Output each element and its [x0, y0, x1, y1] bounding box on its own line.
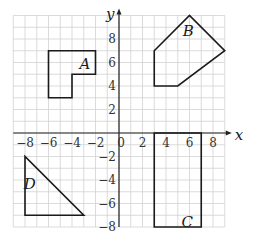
x-tick-label: 0 — [117, 136, 125, 150]
y-tick-label: −8 — [98, 220, 116, 234]
x-axis-arrow-icon — [226, 131, 232, 136]
x-tick-label: −4 — [63, 136, 81, 150]
x-tick-label: −2 — [87, 136, 105, 150]
shape-label: D — [23, 175, 36, 193]
x-tick-label: 6 — [186, 136, 194, 150]
shape-label: B — [182, 22, 194, 40]
x-tick-label: −8 — [16, 136, 34, 150]
shape-label: A — [78, 55, 91, 73]
x-tick-label: 4 — [162, 136, 170, 150]
x-axis-label: x — [235, 126, 244, 144]
shape-label: C — [181, 213, 193, 231]
y-axis-label: y — [105, 5, 115, 23]
y-tick-label: 6 — [108, 56, 116, 70]
x-tick-label: 8 — [209, 136, 217, 150]
y-tick-label: −6 — [98, 197, 116, 211]
x-tick-label: −6 — [40, 136, 58, 150]
y-tick-label: 8 — [108, 32, 116, 46]
coordinate-plane: −8−6−4−2024688642−2−4−6−8 ABCD x y — [0, 0, 253, 238]
y-tick-label: 2 — [108, 103, 116, 117]
shape-d: D — [23, 157, 84, 216]
x-tick-label: 2 — [139, 136, 147, 150]
y-tick-label: −4 — [98, 173, 116, 187]
y-axis-arrow-icon — [117, 9, 122, 15]
axes — [13, 9, 232, 228]
y-tick-label: 4 — [108, 79, 116, 93]
shapes: ABCD — [23, 16, 225, 232]
y-tick-label: −2 — [98, 150, 116, 164]
